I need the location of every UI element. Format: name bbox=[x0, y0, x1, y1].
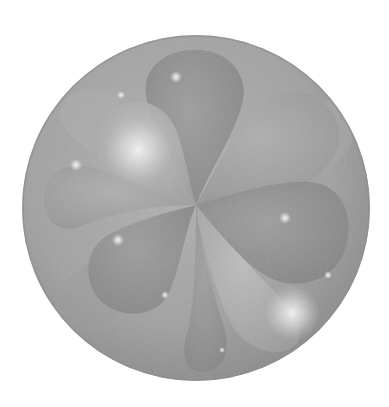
orbital-sphere-render bbox=[0, 0, 389, 407]
grain-overlay bbox=[0, 0, 389, 407]
orbital-sphere-image: Grayscale 3D rendering of overlapping te… bbox=[0, 0, 389, 407]
